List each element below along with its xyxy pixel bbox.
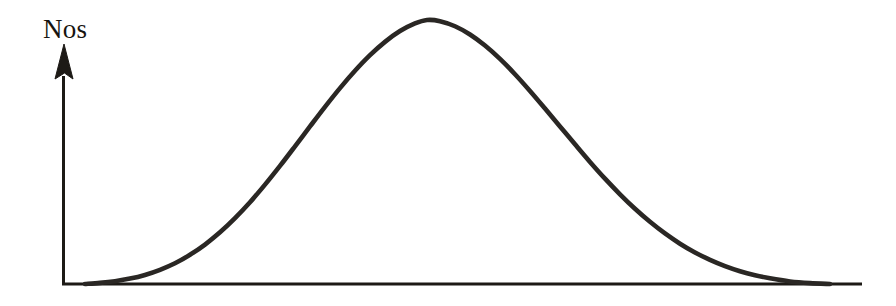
chart-background [0,0,896,306]
chart-canvas: Nos [0,0,896,306]
y-axis-label: Nos [43,14,87,44]
figure-root: Nos [0,0,896,306]
